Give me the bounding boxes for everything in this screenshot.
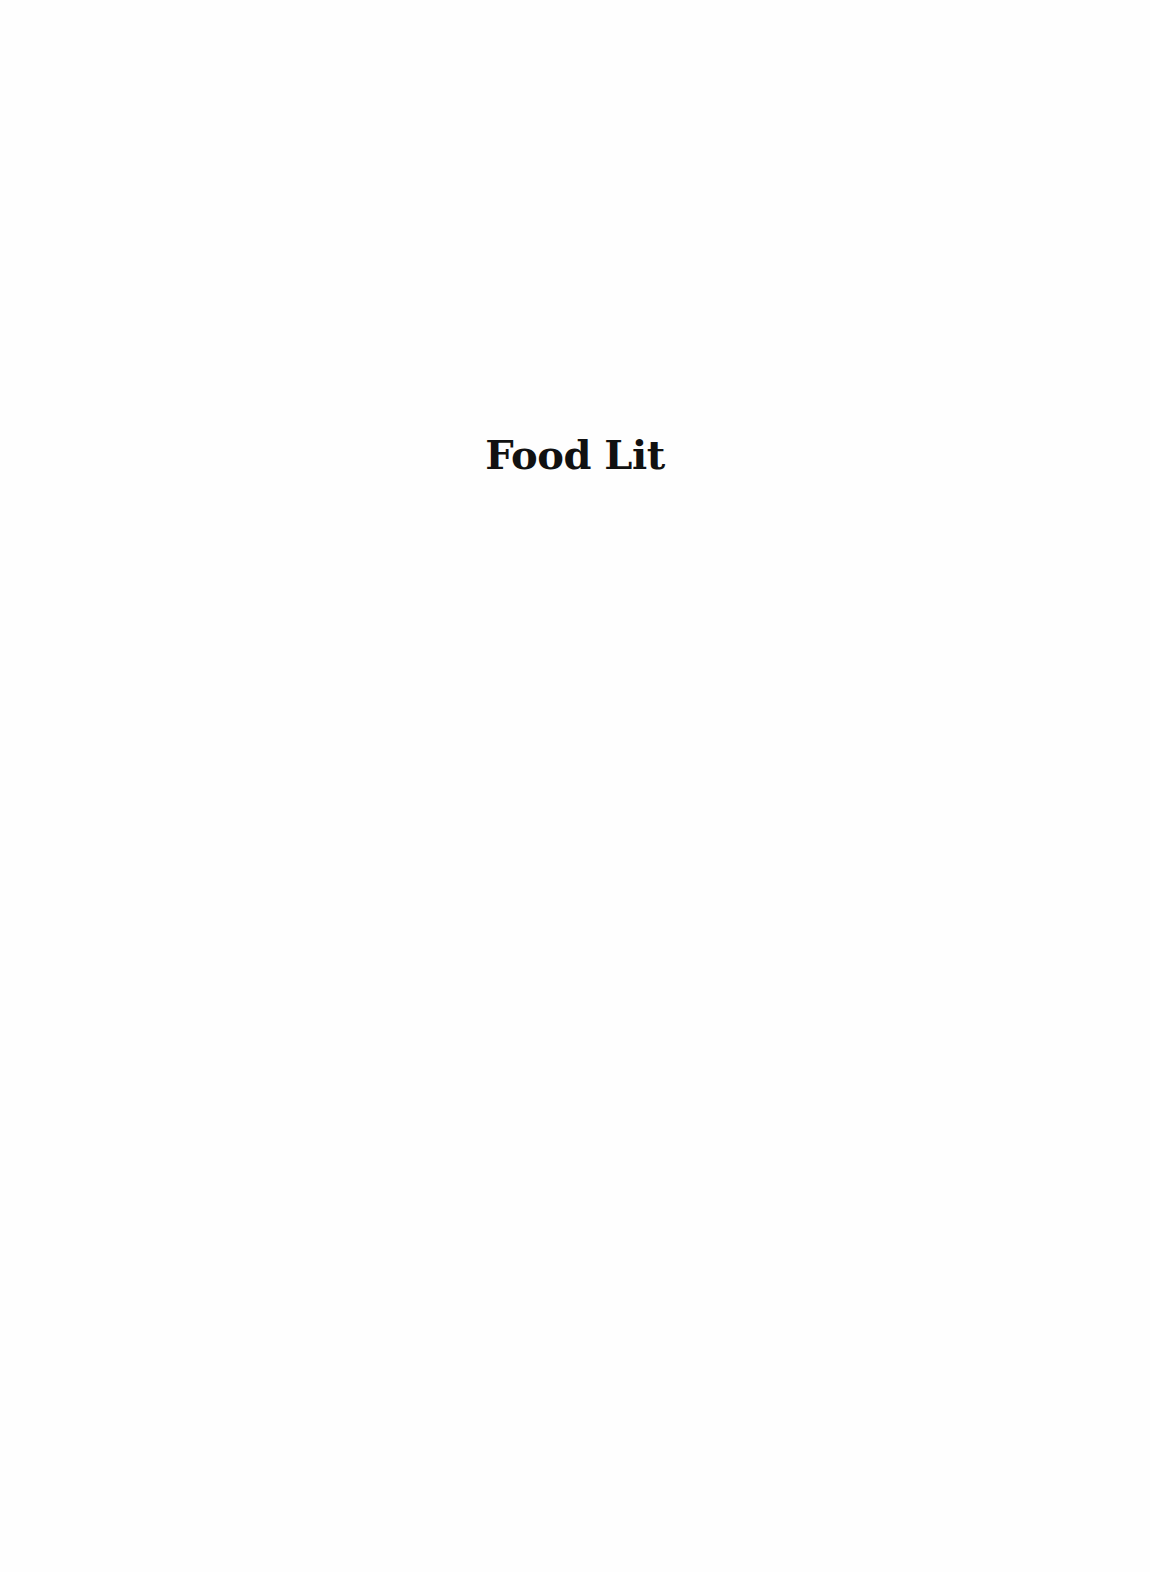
book-title: Food Lit — [0, 429, 1150, 481]
book-half-title-page: Food Lit — [0, 0, 1150, 1572]
